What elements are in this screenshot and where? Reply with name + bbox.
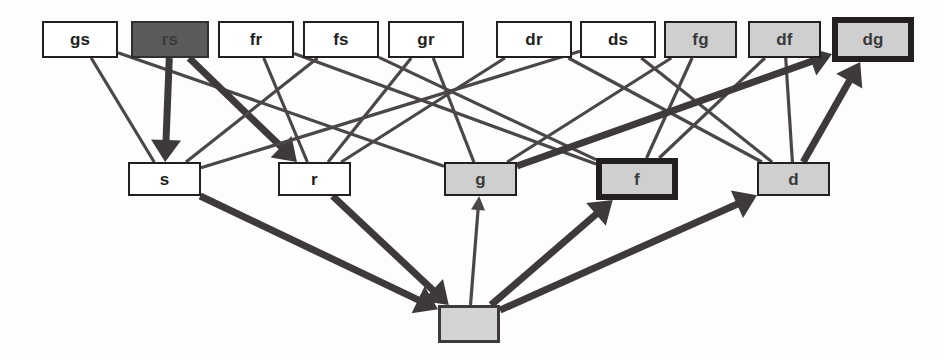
edge-d-to-dg [803, 62, 862, 162]
node-label: dr [525, 31, 542, 48]
arrowhead [471, 196, 485, 211]
edge-fg-to-g [507, 58, 671, 162]
node-dr[interactable]: dr [496, 21, 572, 58]
node-gs[interactable]: gs [42, 21, 118, 58]
node-label: f [634, 171, 640, 188]
node-ds[interactable]: ds [580, 21, 656, 58]
node-rs[interactable]: rs [131, 21, 209, 58]
node-dg[interactable]: dg [832, 17, 914, 62]
edge-gs-to-s [91, 58, 154, 162]
edge-line [803, 73, 854, 162]
node-label: fg [692, 31, 708, 48]
edge-gr-to-r [328, 58, 411, 162]
edge-line [166, 58, 170, 150]
edge-line [379, 57, 596, 159]
node-root[interactable] [438, 305, 500, 343]
node-label: fs [333, 31, 349, 48]
edge-root-to-d [500, 191, 757, 311]
edge-ds-to-d [641, 58, 772, 162]
arrowhead [151, 139, 181, 162]
node-label: gs [70, 31, 90, 48]
diagram-canvas: gsrsfrfsgrdrdsfgdfdgsrgfd [0, 0, 944, 360]
node-label: rs [162, 31, 178, 48]
edge-gr-to-g [433, 58, 474, 162]
node-f[interactable]: f [596, 158, 678, 200]
edge-line [328, 58, 411, 162]
node-d[interactable]: d [757, 162, 830, 196]
edge-line [471, 204, 479, 305]
node-label: dg [862, 31, 883, 48]
edge-line [641, 58, 772, 162]
edge-fs-to-f [379, 57, 596, 159]
node-fs[interactable]: fs [303, 21, 379, 58]
edge-line [507, 58, 671, 162]
node-g[interactable]: g [444, 162, 517, 196]
node-fg[interactable]: fg [664, 21, 737, 58]
node-r[interactable]: r [278, 162, 351, 196]
edge-s-to-root [200, 196, 438, 313]
node-fr[interactable]: fr [218, 21, 294, 58]
edge-root-to-g [471, 196, 486, 305]
node-s[interactable]: s [128, 162, 201, 196]
node-gr[interactable]: gr [388, 21, 464, 58]
node-label: ds [608, 31, 628, 48]
edge-line [433, 58, 474, 162]
node-label: s [160, 171, 170, 188]
edge-line [500, 200, 746, 310]
node-label: gr [417, 31, 434, 48]
node-label: g [475, 171, 486, 188]
edge-line [91, 58, 154, 162]
node-label: r [311, 171, 318, 188]
node-label: fr [250, 31, 263, 48]
edge-line [341, 58, 505, 162]
node-df[interactable]: df [748, 21, 821, 58]
node-label: df [776, 31, 792, 48]
edge-dr-to-r [341, 58, 505, 162]
node-label: d [788, 171, 799, 188]
